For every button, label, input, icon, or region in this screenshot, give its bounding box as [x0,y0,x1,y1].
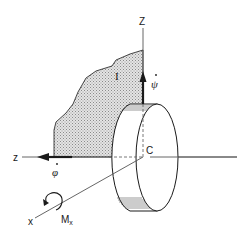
label-z-horizontal: z [13,152,18,163]
label-center: C [146,145,153,156]
spin-arrowhead-icon [37,153,49,161]
gyroscope-diagram: Z z x I C ψ φ Mx [0,0,247,237]
label-Z-vertical: Z [139,16,145,27]
psi-dot-icon [155,74,157,76]
label-x-axis: x [28,216,33,227]
label-psi-dot: ψ [151,78,158,90]
label-inertia: I [115,70,119,82]
label-moment: Mx [61,214,73,226]
phi-dot-icon [56,163,58,165]
label-phi-dot: φ [52,166,58,178]
